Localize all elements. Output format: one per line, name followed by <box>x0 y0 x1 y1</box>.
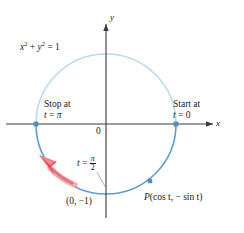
equation-equals-one: = 1 <box>45 42 60 52</box>
start-value: 0 <box>186 110 191 120</box>
origin-label: 0 <box>96 126 101 137</box>
quarter-fraction: π2 <box>90 155 96 172</box>
stop-annotation-line1: Stop at <box>44 99 71 109</box>
quarter-numerator: π <box>90 155 96 163</box>
point-p-cos-term: cos t <box>153 192 171 202</box>
marker-point-p <box>148 179 152 183</box>
stop-equals: = <box>47 110 57 120</box>
point-p-close-paren: ) <box>199 192 202 202</box>
start-annotation-line1: Start at <box>173 99 200 109</box>
point-p-label: P(cos t, − sin t) <box>144 192 202 203</box>
start-equals: = <box>176 110 186 120</box>
circle-equation-label: x2 + y2 = 1 <box>20 40 60 53</box>
x-axis-label: x <box>216 118 220 128</box>
equation-plus: + <box>27 42 37 52</box>
marker-t-pi <box>34 122 39 127</box>
stop-value: π <box>57 110 62 120</box>
quarter-equals: = <box>80 158 90 168</box>
start-annotation-line2: t = 0 <box>173 110 200 121</box>
start-annotation: Start at t = 0 <box>173 99 200 120</box>
unit-circle-figure <box>0 0 244 233</box>
quarter-denominator: 2 <box>90 163 96 172</box>
stop-annotation: Stop at t = π <box>44 99 71 120</box>
y-axis-arrowhead <box>103 24 108 31</box>
x-axis-arrowhead <box>206 121 213 126</box>
stop-annotation-line2: t = π <box>44 110 71 121</box>
quarter-turn-annotation: t = π2 <box>77 155 96 172</box>
y-axis-label: y <box>110 12 114 22</box>
bottom-point-label: (0, −1) <box>66 196 92 207</box>
point-p-sin-term: − sin t <box>175 192 199 202</box>
marker-t-zero <box>174 122 179 127</box>
